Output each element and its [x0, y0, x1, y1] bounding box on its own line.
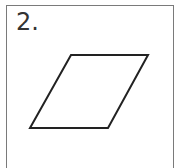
parallelogram-shape [30, 55, 148, 128]
parallelogram-figure [0, 0, 177, 168]
